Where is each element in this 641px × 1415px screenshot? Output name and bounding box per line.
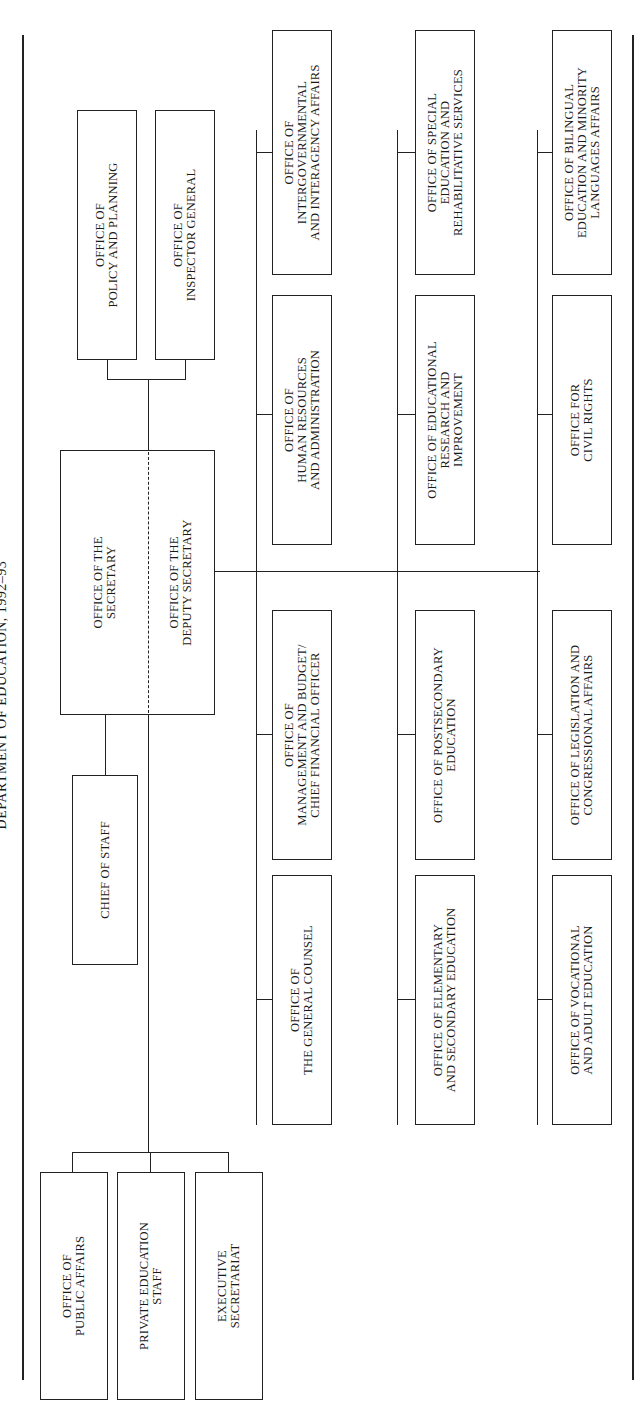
connector	[537, 414, 552, 415]
connector	[72, 1152, 229, 1153]
bottom-rule	[632, 35, 634, 1380]
top-rule	[22, 35, 24, 1380]
column-1-spine	[256, 130, 257, 1125]
office-legislation-congressional-affairs: OFFICE OF LEGISLATION AND CONGRESSIONAL …	[552, 610, 612, 860]
connector	[148, 715, 149, 1153]
office-inspector-general: OFFICE OF INSPECTOR GENERAL	[155, 110, 215, 360]
office-intergovernmental-interagency: OFFICE OF INTERGOVERNMENTAL AND INTERAGE…	[272, 30, 332, 275]
column-3-spine	[537, 130, 538, 1125]
office-management-budget-cfo: OFFICE OF MANAGEMENT AND BUDGET/ CHIEF F…	[272, 610, 332, 860]
office-of-the-secretary: OFFICE OF THE SECRETARY OFFICE OF THE DE…	[60, 450, 215, 715]
office-general-counsel: OFFICE OF THE GENERAL COUNSEL	[272, 875, 332, 1125]
connector	[148, 380, 149, 450]
connector	[537, 734, 552, 735]
connector	[256, 734, 272, 735]
office-postsecondary-education: OFFICE OF POSTSECONDARY EDUCATION	[415, 610, 475, 860]
connector	[72, 1152, 73, 1172]
office-policy-and-planning: OFFICE OF POLICY AND PLANNING	[77, 110, 137, 360]
connector	[397, 999, 415, 1000]
office-bilingual-minority-languages: OFFICE OF BILINGUAL EDUCATION AND MINORI…	[552, 30, 612, 275]
office-human-resources-administration: OFFICE OF HUMAN RESOURCES AND ADMINISTRA…	[272, 295, 332, 545]
chart-title: DEPARTMENT OF EDUCATION, 1992–93	[0, 445, 10, 945]
office-vocational-adult-education: OFFICE OF VOCATIONAL AND ADULT EDUCATION	[552, 875, 612, 1125]
connector	[256, 999, 272, 1000]
connector	[228, 1152, 229, 1172]
connector	[537, 999, 552, 1000]
connector	[397, 414, 415, 415]
connector	[397, 152, 415, 153]
secretary-deputy-divider	[148, 452, 149, 713]
connector	[256, 152, 272, 153]
office-special-education-rehab: OFFICE OF SPECIAL EDUCATION AND REHABILI…	[415, 30, 475, 275]
office-educational-research-improvement: OFFICE OF EDUCATIONAL RESEARCH AND IMPRO…	[415, 295, 475, 545]
connector	[537, 152, 552, 153]
connector	[397, 734, 415, 735]
office-for-civil-rights: OFFICE FOR CIVIL RIGHTS	[552, 295, 612, 545]
connector	[105, 715, 106, 775]
office-public-affairs: OFFICE OF PUBLIC AFFAIRS	[40, 1172, 108, 1400]
connector	[185, 360, 186, 380]
executive-secretariat: EXECUTIVE SECRETARIAT	[195, 1172, 263, 1400]
chief-of-staff: CHIEF OF STAFF	[72, 775, 138, 965]
connector	[150, 1152, 151, 1172]
connector	[256, 571, 538, 572]
office-elementary-secondary-education: OFFICE OF ELEMENTARY AND SECONDARY EDUCA…	[415, 875, 475, 1125]
connector	[256, 414, 272, 415]
connector	[107, 360, 108, 380]
connector	[107, 379, 185, 380]
private-education-staff: PRIVATE EDUCATION STAFF	[117, 1172, 185, 1400]
column-2-spine	[397, 130, 398, 1125]
org-chart-page: DEPARTMENT OF EDUCATION, 1992–93 OFFICE …	[0, 0, 641, 1415]
